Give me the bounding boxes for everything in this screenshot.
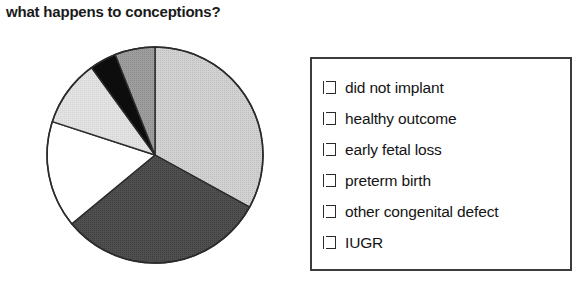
legend-item-label: did not implant <box>345 79 444 97</box>
legend-swatch-icon <box>323 81 336 94</box>
legend-item-early-fetal-loss[interactable]: early fetal loss <box>323 134 563 165</box>
legend: did not implant healthy outcome early fe… <box>310 57 572 271</box>
legend-item-preterm-birth[interactable]: preterm birth <box>323 165 563 196</box>
legend-item-label: preterm birth <box>345 172 431 190</box>
legend-item-label: early fetal loss <box>345 141 442 159</box>
pie-chart-svg <box>0 0 300 290</box>
legend-item-other-congenital-defect[interactable]: other congenital defect <box>323 196 563 227</box>
legend-items: did not implant healthy outcome early fe… <box>323 72 563 258</box>
legend-item-did-not-implant[interactable]: did not implant <box>323 72 563 103</box>
legend-swatch-icon <box>323 205 336 218</box>
legend-swatch-icon <box>323 112 336 125</box>
legend-item-iugr[interactable]: IUGR <box>323 227 563 258</box>
legend-item-label: other congenital defect <box>345 203 498 221</box>
legend-item-healthy-outcome[interactable]: healthy outcome <box>323 103 563 134</box>
legend-swatch-icon <box>323 236 336 249</box>
legend-swatch-icon <box>323 143 336 156</box>
legend-item-label: IUGR <box>345 234 383 252</box>
pie-chart <box>0 0 300 290</box>
legend-item-label: healthy outcome <box>345 110 457 128</box>
legend-swatch-icon <box>323 174 336 187</box>
pie-slices <box>47 47 263 263</box>
